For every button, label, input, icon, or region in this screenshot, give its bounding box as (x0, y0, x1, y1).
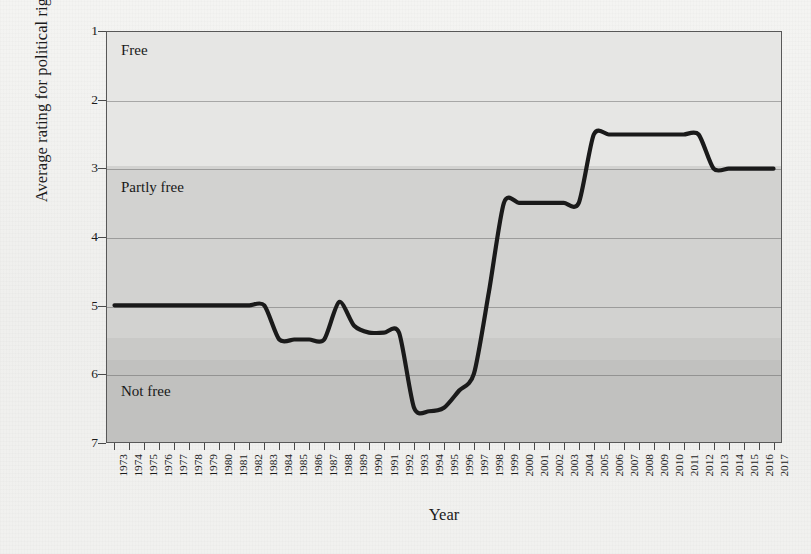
x-tick-mark (579, 443, 580, 450)
y-tick-label: 6 (76, 368, 98, 382)
x-tick-label: 1974 (133, 454, 144, 477)
x-tick-label: 2000 (524, 454, 535, 477)
x-tick-label: 2001 (539, 454, 550, 477)
x-tick-mark (114, 443, 115, 450)
x-tick-mark (714, 443, 715, 450)
x-tick-mark (324, 443, 325, 450)
x-tick-mark (354, 443, 355, 450)
y-tick-label: 1 (76, 24, 98, 38)
x-tick-mark (669, 443, 670, 450)
x-tick-mark (429, 443, 430, 450)
x-tick-label: 2017 (779, 454, 790, 477)
x-tick-label: 1976 (163, 454, 174, 477)
x-tick-label: 2006 (614, 454, 625, 477)
x-tick-label: 1984 (283, 454, 294, 477)
x-axis: 1973197419751976197719781979198019811982… (106, 443, 782, 548)
x-tick-label: 1983 (268, 454, 279, 477)
x-tick-mark (474, 443, 475, 450)
y-axis-tick-labels: 1234567 (74, 0, 98, 554)
x-tick-label: 2008 (644, 454, 655, 477)
x-tick-label: 2015 (749, 454, 760, 477)
x-tick-label: 1978 (193, 454, 204, 477)
x-tick-label: 1993 (419, 454, 430, 477)
x-tick-mark (309, 443, 310, 450)
x-tick-label: 1977 (178, 454, 189, 477)
x-tick-label: 1973 (118, 454, 129, 477)
x-tick-mark (129, 443, 130, 450)
y-tick-mark (98, 168, 106, 169)
data-line (114, 131, 773, 414)
y-axis-title: Average rating for political rights and … (22, 0, 62, 250)
x-tick-mark (594, 443, 595, 450)
x-tick-mark (759, 443, 760, 450)
x-tick-label: 1990 (373, 454, 384, 477)
x-tick-label: 2007 (629, 454, 640, 477)
x-tick-label: 1979 (208, 454, 219, 477)
x-tick-label: 1998 (494, 454, 505, 477)
x-tick-label: 1975 (148, 454, 159, 477)
x-tick-label: 1980 (223, 454, 234, 477)
x-tick-mark (369, 443, 370, 450)
y-tick-mark (98, 100, 106, 101)
y-tick-mark (98, 374, 106, 375)
x-tick-label: 1999 (509, 454, 520, 477)
x-tick-mark (144, 443, 145, 450)
x-tick-mark (219, 443, 220, 450)
y-tick-mark (98, 31, 106, 32)
x-tick-mark (339, 443, 340, 450)
x-tick-label: 2013 (719, 454, 730, 477)
x-tick-mark (414, 443, 415, 450)
x-tick-label: 2014 (734, 454, 745, 477)
y-tick-mark (98, 443, 106, 444)
line-series (107, 32, 781, 442)
x-tick-mark (699, 443, 700, 450)
y-tick-mark (98, 306, 106, 307)
x-tick-mark (444, 443, 445, 450)
x-tick-mark (684, 443, 685, 450)
x-tick-label: 1988 (343, 454, 354, 477)
x-tick-mark (639, 443, 640, 450)
x-tick-mark (654, 443, 655, 450)
x-tick-label: 1994 (434, 454, 445, 477)
x-tick-mark (279, 443, 280, 450)
x-tick-label: 2016 (764, 454, 775, 477)
x-tick-mark (294, 443, 295, 450)
x-tick-mark (729, 443, 730, 450)
x-tick-label: 1992 (404, 454, 415, 477)
x-tick-mark (609, 443, 610, 450)
y-tick-label: 5 (76, 299, 98, 313)
x-tick-mark (564, 443, 565, 450)
x-tick-mark (204, 443, 205, 450)
x-tick-mark (624, 443, 625, 450)
y-tick-mark (98, 237, 106, 238)
x-tick-label: 2004 (584, 454, 595, 477)
x-axis-title: Year (106, 505, 782, 525)
x-tick-label: 1985 (298, 454, 309, 477)
x-tick-mark (504, 443, 505, 450)
x-tick-label: 2010 (674, 454, 685, 477)
x-tick-label: 1986 (313, 454, 324, 477)
plot-area: FreePartly freeNot free (106, 31, 782, 443)
x-tick-mark (534, 443, 535, 450)
x-tick-mark (744, 443, 745, 450)
y-tick-label: 3 (76, 162, 98, 176)
x-tick-label: 1982 (253, 454, 264, 477)
y-tick-label: 2 (76, 93, 98, 107)
x-tick-mark (459, 443, 460, 450)
chart-figure: Average rating for political rights and … (0, 0, 811, 554)
x-tick-mark (174, 443, 175, 450)
x-tick-label: 1987 (328, 454, 339, 477)
x-tick-label: 2002 (554, 454, 565, 477)
y-tick-label: 4 (76, 230, 98, 244)
x-tick-label: 1989 (358, 454, 369, 477)
x-tick-mark (249, 443, 250, 450)
x-tick-label: 2011 (689, 454, 700, 476)
x-tick-mark (189, 443, 190, 450)
x-tick-mark (399, 443, 400, 450)
x-tick-mark (234, 443, 235, 450)
x-tick-label: 1997 (479, 454, 490, 477)
x-tick-mark (384, 443, 385, 450)
x-tick-label: 2012 (704, 454, 715, 477)
x-tick-mark (264, 443, 265, 450)
x-tick-mark (549, 443, 550, 450)
